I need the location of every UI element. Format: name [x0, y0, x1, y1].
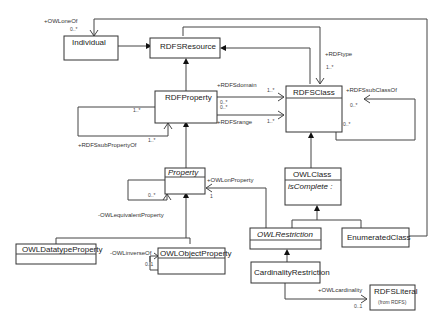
svg-text:Individual: Individual	[72, 38, 106, 47]
rdfs-domain-mult-dst: 1..*	[267, 87, 275, 93]
owl-on-property-label: +OWLonProperty	[207, 177, 254, 183]
generalization-arrow-icon	[308, 132, 314, 138]
owl-cardinality-label: +OWLcardinality	[318, 287, 362, 293]
class-owl-datatype-property[interactable]: OWLDatatypeProperty	[16, 244, 102, 264]
owl-on-property-line	[206, 188, 266, 228]
rdfs-subclassof-loop	[336, 99, 415, 140]
svg-text:Property: Property	[168, 168, 199, 177]
class-rdfs-resource[interactable]: RDFSResource	[150, 38, 220, 58]
svg-text:RDFProperty: RDFProperty	[165, 93, 212, 102]
owl-one-of-line	[94, 19, 427, 236]
generalization-arrow-icon	[183, 58, 189, 64]
rdf-type-label: +RDFtype	[325, 51, 353, 57]
class-rdf-property[interactable]: RDFProperty	[155, 91, 217, 123]
uml-diagram: Individual RDFSResource RDFProperty RDFS…	[0, 0, 441, 324]
rdfs-subclassof-mult-a: 0..*	[350, 102, 358, 108]
svg-text:OWLDatatypeProperty: OWLDatatypeProperty	[22, 245, 102, 254]
owl-one-of-label: +OWLoneOf	[44, 18, 78, 24]
rdfs-domain-label: +RDFSdomain	[217, 82, 257, 88]
owlclass-subclasses-generalization	[292, 211, 361, 228]
svg-text:(from RDFS): (from RDFS)	[378, 299, 407, 305]
svg-text:OWLClass: OWLClass	[293, 170, 331, 179]
rdf-type-mult: 1..*	[326, 64, 334, 70]
generalization-arrow-icon	[284, 249, 290, 255]
svg-text:RDFSLiteral: RDFSLiteral	[374, 287, 418, 296]
rdfs-subpropertyof-label: +RDFSsubPropertyOf	[78, 142, 137, 148]
owl-equivalent-property-label: -OWLequivalentProperty	[98, 212, 164, 218]
rdfs-subclassof-label: +RDFSsubClassOf	[346, 87, 397, 93]
svg-text:CardinalityRestriction: CardinalityRestriction	[254, 268, 330, 277]
class-rdfs-class[interactable]: RDFSClass	[286, 86, 342, 132]
rdfs-range-mult-src: 0..*	[220, 104, 228, 110]
owl-equivalent-property-mult: 0..*	[148, 192, 156, 198]
owl-one-of-mult: 0..*	[70, 26, 78, 32]
class-cardinality-restriction[interactable]: CardinalityRestriction	[251, 262, 330, 283]
rdfsclass-to-resource-line	[226, 48, 310, 84]
class-owl-restriction[interactable]: OWLRestriction	[250, 228, 321, 249]
generalization-arrow-icon	[220, 45, 226, 51]
generalization-arrow-icon	[314, 205, 320, 211]
svg-text:EnumeratedClass: EnumeratedClass	[347, 233, 411, 242]
rdfs-range-mult-dst: 1..*	[267, 118, 275, 124]
owl-on-property-mult: 1	[210, 193, 213, 199]
rdfs-subpropertyof-mult-a: 1..*	[133, 107, 141, 113]
svg-text:RDFSClass: RDFSClass	[293, 88, 335, 97]
svg-text:isComplete :: isComplete :	[288, 182, 332, 191]
class-owl-class[interactable]: OWLClass isComplete :	[285, 168, 341, 205]
svg-text:OWLRestriction: OWLRestriction	[257, 230, 314, 239]
rdfs-subclassof-mult-b: 0..*	[343, 121, 351, 127]
rdfs-subpropertyof-mult-b: 1..*	[148, 137, 156, 143]
class-owl-object-property[interactable]: OWLObjectProperty	[158, 248, 232, 274]
property-subclasses-generalization	[56, 198, 190, 244]
class-property[interactable]: Property	[165, 168, 205, 194]
rdfs-range-label: +RDFSrange	[217, 119, 253, 125]
owl-inverse-of-label: -OWLinverseOf	[110, 250, 152, 256]
class-enumerated-class[interactable]: EnumeratedClass	[342, 228, 411, 247]
owl-cardinality-mult: 0..1	[354, 303, 363, 309]
svg-text:OWLObjectProperty: OWLObjectProperty	[160, 249, 232, 258]
class-rdfs-literal[interactable]: RDFSLiteral (from RDFS)	[370, 285, 418, 310]
svg-text:RDFSResource: RDFSResource	[160, 42, 217, 51]
class-individual[interactable]: Individual	[64, 36, 118, 60]
owl-inverse-of-mult: 0..1	[145, 261, 154, 267]
